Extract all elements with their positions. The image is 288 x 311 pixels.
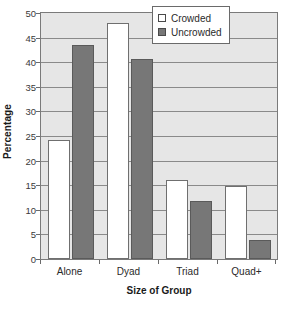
- legend-item-crowded: Crowded: [158, 11, 222, 25]
- legend-swatch-crowded-icon: [158, 14, 166, 22]
- bar-triad-uncrowded: [190, 201, 212, 259]
- x-axis-tick-mark: [217, 260, 218, 264]
- y-axis-tick-label: 25: [25, 131, 36, 142]
- legend-label-crowded: Crowded: [171, 13, 211, 24]
- x-axis-category-label: Quad+: [231, 266, 261, 277]
- y-axis-tick-label: 50: [25, 8, 36, 19]
- bar-dyad-uncrowded: [131, 59, 153, 259]
- legend: Crowded Uncrowded: [152, 6, 230, 44]
- legend-swatch-uncrowded-icon: [158, 28, 166, 36]
- y-axis-tick-label: 35: [25, 81, 36, 92]
- y-axis-tick-label: 10: [25, 204, 36, 215]
- plot-area: [40, 12, 278, 260]
- y-axis-tick-label: 45: [25, 32, 36, 43]
- y-axis-ticks: 05101520253035404550: [14, 12, 40, 260]
- bar-alone-uncrowded: [72, 45, 94, 259]
- legend-item-uncrowded: Uncrowded: [158, 25, 222, 39]
- legend-label-uncrowded: Uncrowded: [171, 27, 222, 38]
- y-axis-tick-label: 20: [25, 155, 36, 166]
- x-axis-tick-mark: [40, 260, 41, 264]
- bar-quadplus-uncrowded: [249, 240, 271, 259]
- x-axis-category-label: Dyad: [117, 266, 140, 277]
- bar-triad-crowded: [166, 180, 188, 259]
- x-axis-tick-mark: [275, 260, 276, 264]
- bar-dyad-crowded: [107, 23, 129, 259]
- bar-alone-crowded: [48, 140, 70, 259]
- y-axis-title-text: Percentage: [2, 104, 13, 159]
- y-axis-tick-label: 30: [25, 106, 36, 117]
- bar-chart: Percentage 05101520253035404550 Crowded …: [0, 0, 288, 311]
- bar-quadplus-crowded: [225, 186, 247, 259]
- y-axis-title: Percentage: [0, 0, 14, 262]
- x-axis-tick-mark: [158, 260, 159, 264]
- x-axis-category-labels: AloneDyadTriadQuad+: [40, 266, 278, 280]
- y-axis-tick-label: 40: [25, 57, 36, 68]
- x-axis-category-label: Alone: [57, 266, 83, 277]
- y-axis-tick-label: 15: [25, 180, 36, 191]
- x-axis-tick-mark: [99, 260, 100, 264]
- x-axis-category-label: Triad: [176, 266, 198, 277]
- x-axis-title: Size of Group: [40, 285, 278, 296]
